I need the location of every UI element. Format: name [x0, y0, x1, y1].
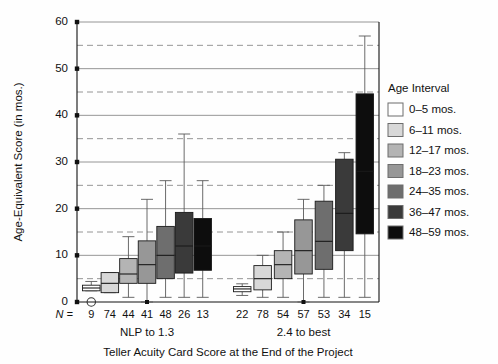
x-axis-title: Teller Acuity Card Score at the End of t…: [103, 346, 353, 358]
y-tick-label-10: 10: [55, 248, 68, 260]
box-rect[interactable]: [157, 226, 175, 278]
box-1-5[interactable]: [157, 181, 175, 298]
n-value-2-2: 78: [257, 308, 269, 320]
legend-item-4[interactable]: 18–23 mos.: [388, 165, 469, 178]
n-prefix-label: N =: [56, 308, 74, 320]
box-2-2[interactable]: [254, 255, 272, 297]
n-value-1-3: 44: [122, 308, 134, 320]
legend-swatch-7: [388, 226, 403, 239]
legend-swatch-1: [388, 103, 403, 116]
box-2-4[interactable]: [295, 199, 313, 302]
legend-swatch-4: [388, 165, 403, 178]
box-2-1[interactable]: [233, 284, 251, 296]
y-tick-label-0: 0: [62, 295, 68, 307]
n-value-1-4: 41: [141, 308, 153, 320]
legend-item-5[interactable]: 24–35 mos.: [388, 185, 469, 198]
box-2-5[interactable]: [315, 185, 333, 297]
legend-label-3: 12–17 mos.: [409, 144, 469, 156]
box-rect[interactable]: [138, 241, 156, 283]
legend-label-5: 24–35 mos.: [409, 185, 469, 197]
box-1-7[interactable]: [194, 181, 212, 298]
y-tick-mark-60: [75, 20, 79, 24]
box-rect[interactable]: [101, 273, 119, 293]
legend-label-4: 18–23 mos.: [409, 165, 469, 177]
n-label-group: N =9744441482613NLP to 1.322785457533415…: [56, 308, 371, 338]
legend: Age Interval0–5 mos.6–11 mos.12–17 mos.1…: [388, 82, 469, 239]
box-group-2: [233, 36, 373, 302]
legend-item-1[interactable]: 0–5 mos.: [388, 103, 456, 116]
chart-canvas: 0102030405060Age-Equivalent Score (in mo…: [0, 0, 498, 364]
boxplot-figure: 0102030405060Age-Equivalent Score (in mo…: [0, 0, 498, 364]
legend-item-2[interactable]: 6–11 mos.: [388, 124, 462, 137]
legend-item-7[interactable]: 48–59 mos.: [388, 226, 469, 239]
n-value-2-5: 53: [318, 308, 330, 320]
legend-title: Age Interval: [388, 82, 449, 94]
box-1-4[interactable]: [138, 199, 156, 302]
box-2-7[interactable]: [356, 36, 374, 297]
y-tick-mark-10: [75, 253, 79, 257]
box-1-3[interactable]: [120, 237, 138, 298]
legend-swatch-3: [388, 144, 403, 157]
y-tick-mark-50: [75, 66, 79, 70]
y-tick-label-60: 60: [55, 15, 68, 27]
n-value-1-7: 13: [197, 308, 209, 320]
box-1-2[interactable]: [101, 273, 119, 293]
n-value-2-4: 57: [297, 308, 309, 320]
y-tick-mark-20: [75, 206, 79, 210]
y-axis-title: Age-Equivalent Score (in mos.): [12, 82, 24, 241]
y-tick-label-40: 40: [55, 108, 68, 120]
legend-swatch-2: [388, 124, 403, 137]
gridlines: [77, 22, 379, 279]
n-value-1-1: 9: [88, 308, 94, 320]
legend-label-6: 36–47 mos.: [409, 206, 469, 218]
outlier-filled-square-3: [302, 300, 306, 304]
box-group-1: [83, 134, 212, 302]
box-rect[interactable]: [295, 220, 313, 274]
box-rect[interactable]: [194, 218, 212, 270]
n-value-1-6: 26: [178, 308, 190, 320]
legend-label-2: 6–11 mos.: [409, 124, 462, 136]
legend-label-7: 48–59 mos.: [409, 226, 469, 238]
y-tick-mark-30: [75, 160, 79, 164]
box-rect[interactable]: [356, 94, 374, 234]
box-rect[interactable]: [336, 159, 354, 250]
legend-item-3[interactable]: 12–17 mos.: [388, 144, 469, 157]
box-1-1[interactable]: [83, 281, 101, 290]
y-tick-mark-0: [75, 300, 79, 304]
box-rect[interactable]: [315, 201, 333, 269]
legend-item-6[interactable]: 36–47 mos.: [388, 206, 469, 219]
n-value-2-6: 34: [338, 308, 350, 320]
y-tick-label-30: 30: [55, 155, 68, 167]
n-value-2-1: 22: [236, 308, 248, 320]
box-rect[interactable]: [120, 259, 138, 284]
legend-swatch-6: [388, 206, 403, 219]
box-2-3[interactable]: [274, 232, 292, 297]
group-label-2: 2.4 to best: [277, 326, 332, 338]
outlier-filled-square-2: [145, 300, 149, 304]
y-tick-label-50: 50: [55, 62, 68, 74]
n-value-2-7: 15: [359, 308, 371, 320]
legend-label-1: 0–5 mos.: [409, 103, 456, 115]
n-value-1-2: 74: [104, 308, 116, 320]
group-label-1: NLP to 1.3: [120, 326, 174, 338]
n-value-2-3: 54: [277, 308, 289, 320]
box-rect[interactable]: [254, 266, 272, 290]
box-1-6[interactable]: [175, 134, 193, 297]
box-2-6[interactable]: [336, 153, 354, 298]
n-value-1-5: 48: [159, 308, 171, 320]
y-tick-group: 0102030405060: [55, 15, 79, 307]
y-tick-label-20: 20: [55, 202, 68, 214]
y-tick-mark-40: [75, 113, 79, 117]
legend-swatch-5: [388, 185, 403, 198]
box-rect[interactable]: [175, 212, 193, 273]
